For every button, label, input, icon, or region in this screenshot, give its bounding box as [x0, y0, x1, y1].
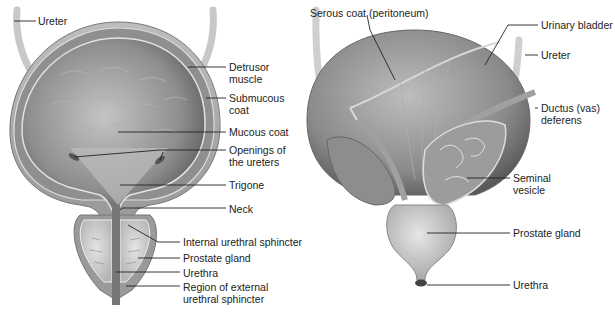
label-urethra-right: Urethra — [513, 279, 548, 291]
label-prostate-gland-right: Prostate gland — [513, 227, 581, 239]
label-openings-ureters-line2: the ureters — [229, 156, 279, 168]
label-neck: Neck — [229, 203, 253, 215]
label-submucous-coat-line2: coat — [229, 104, 249, 116]
label-seminal-vesicle-line2: vesicle — [513, 184, 545, 196]
bladder-posterior-panel: Serous coat (peritoneum) Urinary bladder… — [305, 0, 615, 313]
label-ductus-deferens-line1: Ductus (vas) — [541, 102, 600, 114]
label-detrusor-muscle-line1: Detrusor — [229, 61, 269, 73]
label-serous-coat: Serous coat (peritoneum) — [310, 7, 428, 19]
label-ureter: Ureter — [38, 15, 67, 27]
label-prostate-gland: Prostate gland — [183, 252, 251, 264]
label-ureter-right: Ureter — [541, 49, 570, 61]
label-internal-urethral-sphincter: Internal urethral sphincter — [183, 236, 302, 248]
label-submucous-coat-line1: Submucous — [229, 92, 284, 104]
label-urinary-bladder: Urinary bladder — [541, 19, 613, 31]
label-seminal-vesicle-line1: Seminal — [513, 172, 551, 184]
label-openings-ureters-line1: Openings of — [229, 144, 286, 156]
label-mucous-coat: Mucous coat — [229, 126, 289, 138]
label-external-sphincter-line2: urethral sphincter — [183, 293, 264, 305]
label-ductus-deferens-line2: deferens — [541, 114, 582, 126]
bladder-section-panel: Ureter Detrusor muscle Submucous coat Mu… — [0, 0, 310, 313]
bladder-posterior-illustration — [305, 0, 615, 313]
label-urethra: Urethra — [183, 267, 218, 279]
label-detrusor-muscle-line2: muscle — [229, 73, 262, 85]
label-external-sphincter-line1: Region of external — [183, 281, 268, 293]
label-trigone: Trigone — [229, 179, 264, 191]
